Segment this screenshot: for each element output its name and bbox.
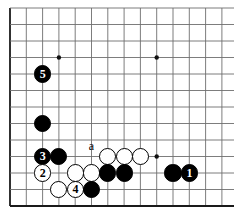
go-stone-white[interactable]	[67, 164, 84, 181]
go-stone-black[interactable]	[164, 164, 181, 181]
star-point	[155, 154, 159, 158]
go-stone-black[interactable]	[83, 181, 100, 198]
star-point	[57, 55, 61, 59]
move-number: 2	[40, 166, 46, 178]
go-board-grid	[0, 0, 234, 224]
move-number: 1	[187, 166, 193, 178]
go-stone-black-move-1[interactable]: 1	[181, 164, 198, 181]
go-stone-white[interactable]	[132, 148, 149, 165]
go-stone-white[interactable]	[116, 148, 133, 165]
move-number: 5	[40, 67, 46, 79]
go-stone-white[interactable]	[83, 164, 100, 181]
point-label-a: a	[86, 139, 98, 153]
move-number: 4	[72, 183, 78, 195]
go-stone-white-move-4[interactable]: 4	[67, 181, 84, 198]
go-stone-black[interactable]	[116, 164, 133, 181]
go-stone-black[interactable]	[99, 164, 116, 181]
star-point	[155, 55, 159, 59]
go-diagram: 53214 a	[0, 0, 234, 224]
go-stone-white-move-2[interactable]: 2	[34, 164, 51, 181]
move-number: 3	[40, 150, 46, 162]
go-stone-black-move-5[interactable]: 5	[34, 65, 51, 82]
